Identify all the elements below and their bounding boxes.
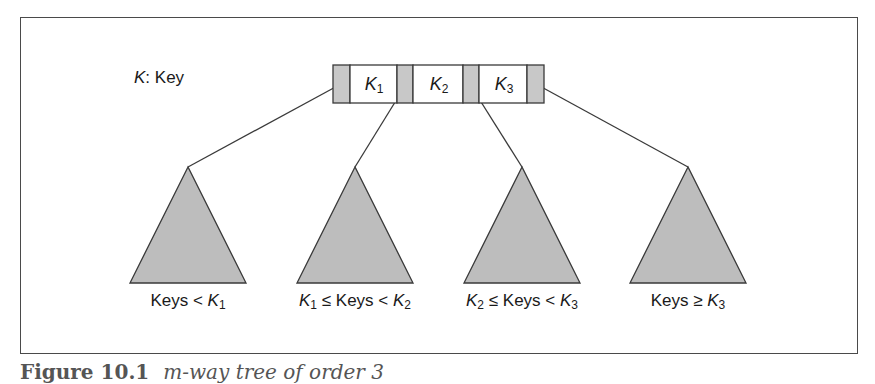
node-key-label-2: K2 — [430, 75, 449, 95]
node-pointer-cell-3 — [527, 65, 544, 103]
legend: K: Key — [134, 69, 184, 86]
subtree-label-2: K2 ≤ Keys < K3 — [466, 292, 578, 311]
subtree-triangle-1 — [297, 167, 413, 283]
subtree-label-0: Keys < K1 — [150, 292, 225, 311]
figure-number: Figure 10.1 — [20, 360, 149, 384]
node-key-label-1: K1 — [365, 75, 384, 95]
node-pointer-cell-0 — [333, 65, 350, 103]
edge-pointer-3 — [536, 84, 688, 167]
edge-pointer-0 — [188, 84, 341, 167]
subtree-triangle-0 — [130, 167, 246, 283]
subtree-triangle-3 — [630, 167, 746, 283]
figure-caption: Figure 10.1m-way tree of order 3 — [20, 362, 384, 382]
node-pointer-cell-2 — [463, 65, 479, 103]
figure-caption-text: m-way tree of order 3 — [163, 360, 384, 384]
subtree-label-3: Keys ≥ K3 — [651, 292, 726, 311]
subtree-triangle-2 — [464, 167, 580, 283]
subtree-label-1: K1 ≤ Keys < K2 — [299, 292, 411, 311]
legend-text: : Key — [145, 68, 184, 87]
node-pointer-cell-1 — [397, 65, 413, 103]
legend-symbol: K — [134, 68, 145, 87]
node-key-label-3: K3 — [495, 75, 514, 95]
